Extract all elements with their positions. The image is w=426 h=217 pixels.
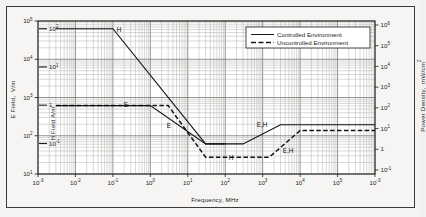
legend-label-controlled: Controlled Environment [277,31,342,38]
y-axis-left-title: E Field, V/m [9,70,16,130]
svg-text:105: 105 [333,178,343,186]
svg-text:103: 103 [23,93,33,101]
svg-text:10-3: 10-3 [33,178,44,186]
svg-text:10-1: 10-1 [107,178,118,186]
legend-label-uncontrolled: Uncontrolled Environment [277,39,348,46]
svg-text:102: 102 [381,103,391,111]
annotation-h: H [117,26,122,33]
svg-text:101: 101 [381,124,391,132]
svg-text:103: 103 [258,178,268,186]
x-axis-title: Frequency, MHz [150,196,280,203]
svg-text:10-3: 10-3 [370,178,381,186]
annotation-e-h: E,H [283,147,294,154]
svg-text:105: 105 [381,41,391,49]
svg-text:10-1: 10-1 [381,166,392,174]
svg-text:105: 105 [23,17,33,25]
y-axis-right-title: Power Density, mW/cm2 [419,53,426,139]
annotation-e: E [124,101,128,108]
annotation-h: H [229,154,234,161]
svg-text:101: 101 [23,170,33,178]
legend: Controlled Environment Uncontrolled Envi… [246,27,370,48]
svg-text:100: 100 [146,178,156,186]
svg-text:104: 104 [381,62,391,70]
svg-text:104: 104 [23,55,33,63]
y-axis-inner-title: H Field A/m [49,94,56,154]
svg-text:102: 102 [221,178,231,186]
svg-text:101: 101 [183,178,193,186]
svg-text:106: 106 [381,21,391,29]
svg-text:10-2: 10-2 [70,178,81,186]
svg-text:102: 102 [23,131,33,139]
svg-text:103: 103 [381,83,391,91]
svg-text:104: 104 [295,178,305,186]
svg-text:1: 1 [381,145,385,152]
annotation-e-h: E,H [257,121,268,128]
annotation-e: E [167,122,171,129]
